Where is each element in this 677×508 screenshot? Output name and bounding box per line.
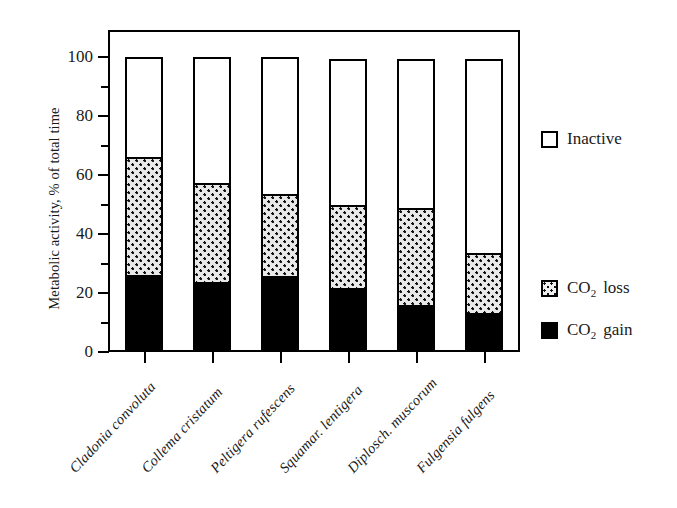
legend-swatch-co2-loss-icon — [541, 280, 558, 297]
bar-segment-co2-loss — [261, 194, 299, 278]
x-tick-3 — [280, 352, 282, 363]
bar-segment-inactive — [329, 59, 367, 207]
bar-segment-inactive — [261, 57, 299, 196]
legend-label-co2-gain: CO2gain — [567, 320, 632, 341]
y-axis-title: Metabolic activity, % of total time — [46, 59, 63, 359]
bar-segment-co2-gain — [397, 305, 435, 352]
bar-segment-co2-loss — [329, 205, 367, 290]
bar-segment-co2-loss — [465, 253, 503, 315]
legend-label-co2-loss-suffix: loss — [603, 278, 629, 297]
y-tick-label-20: 20 — [33, 284, 93, 301]
legend-label-inactive: Inactive — [567, 129, 622, 149]
legend-item-inactive: Inactive — [541, 129, 622, 149]
legend-swatch-co2-gain-icon — [541, 322, 558, 339]
y-tick-label-100: 100 — [33, 48, 93, 65]
legend-item-co2-loss: CO2loss — [541, 278, 630, 299]
bar-segment-co2-gain — [261, 276, 299, 352]
y-tick-label-0: 0 — [33, 343, 93, 360]
bar-segment-co2-gain — [465, 313, 503, 352]
y-tick-label-80: 80 — [33, 107, 93, 124]
plot-area-frame — [108, 30, 520, 352]
bar-segment-co2-loss — [193, 183, 231, 284]
bar-segment-inactive — [193, 57, 231, 185]
legend-label-co2-loss: CO2loss — [567, 278, 630, 299]
y-tick-label-40: 40 — [33, 225, 93, 242]
figure-stacked-bar-chart: Metabolic activity, % of total time 100 … — [0, 0, 677, 508]
bar-segment-co2-gain — [329, 288, 367, 352]
legend-label-co2-loss-sub: 2 — [591, 287, 597, 299]
bar-segment-inactive — [397, 59, 435, 210]
legend-label-co2-gain-suffix: gain — [603, 320, 632, 339]
bar-segment-co2-loss — [397, 208, 435, 307]
legend-swatch-inactive-icon — [541, 131, 558, 148]
legend-label-co2-gain-sub: 2 — [591, 329, 597, 341]
legend-item-co2-gain: CO2gain — [541, 320, 632, 341]
x-tick-1 — [144, 352, 146, 363]
bar-segment-inactive — [465, 59, 503, 255]
x-tick-2 — [212, 352, 214, 363]
bar-segment-co2-gain — [193, 283, 231, 352]
x-tick-4 — [348, 352, 350, 363]
y-tick-label-60: 60 — [33, 166, 93, 183]
x-tick-6 — [484, 352, 486, 363]
bar-segment-co2-loss — [125, 157, 163, 278]
legend-label-co2-gain-text: CO — [567, 320, 591, 339]
x-tick-5 — [416, 352, 418, 363]
bar-segment-co2-gain — [125, 275, 163, 352]
legend-label-co2-loss-text: CO — [567, 278, 591, 297]
